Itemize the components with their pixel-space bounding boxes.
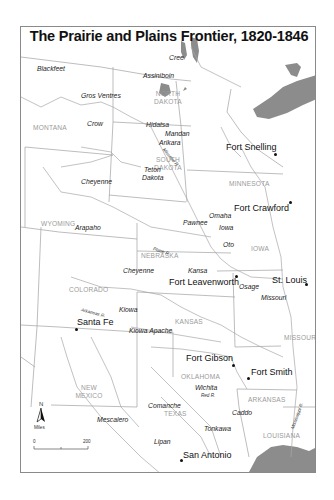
tribe-label-caddo: Caddo	[232, 410, 252, 417]
north-arrow-icon	[35, 408, 47, 424]
scale-bar	[33, 446, 89, 452]
tribe-label-mandan: Mandan	[165, 131, 190, 138]
tribe-label-kiowa: Kiowa	[119, 307, 138, 314]
map-frame: The Prairie and Plains Frontier, 1820-18…	[20, 26, 316, 473]
tribe-label-kiowa-apache: Kiowa Apache	[129, 328, 172, 335]
city-label-san-antonio: San Antonio	[183, 451, 232, 460]
city-label-fort-smith: Fort Smith	[251, 368, 293, 377]
tribe-label-gros-ventres: Gros Ventres	[81, 93, 121, 100]
tribe-label-comanche: Comanche	[148, 403, 181, 410]
tribe-label-hidatsa: Hidatsa	[146, 122, 169, 129]
tribe-label-mescalero: Mescalero	[97, 417, 128, 424]
north-label: N	[39, 401, 43, 407]
city-marker-fort-gibson[interactable]	[232, 364, 235, 367]
tribe-label-cree: Cree	[169, 55, 184, 62]
tribe-label-osage: Osage	[239, 284, 259, 291]
tribe-label-arikara: Arikara	[159, 140, 181, 147]
map-title: The Prairie and Plains Frontier, 1820-18…	[21, 28, 316, 44]
city-marker-fort-crawford[interactable]	[289, 201, 292, 204]
state-label-colorado: COLORADO	[69, 287, 108, 294]
tribe-label-assiniboin: Assiniboin	[143, 73, 174, 80]
state-label-new-mexico-1: NEW	[79, 385, 99, 392]
tribe-label-blackfeet: Blackfeet	[37, 66, 65, 73]
city-marker-santa-fe[interactable]	[75, 328, 78, 331]
tribe-label-iowa: Iowa	[219, 225, 233, 232]
state-label-kansas: KANSAS	[175, 319, 203, 326]
tribe-label-cheyenne-north: Cheyenne	[81, 179, 112, 186]
tribe-label-teton-2: Dakota	[142, 175, 164, 182]
city-label-santa-fe: Santa Fe	[77, 318, 114, 327]
tribe-label-oto: Oto	[223, 242, 234, 249]
city-label-fort-gibson: Fort Gibson	[186, 354, 233, 363]
scale-units-label: Miles	[34, 426, 45, 431]
state-label-north-dakota-1: NORTH	[153, 91, 183, 98]
city-label-st-louis: St. Louis	[272, 276, 307, 285]
city-marker-fort-smith[interactable]	[247, 377, 250, 380]
state-label-north-dakota-2: DAKOTA	[153, 99, 183, 106]
tribe-label-missouri: Missouri	[261, 295, 286, 302]
scale-start-label: 0	[33, 440, 36, 445]
tribe-label-arapaho: Arapaho	[75, 225, 101, 232]
tribe-label-omaha: Omaha	[209, 213, 231, 220]
scale-end-label: 200	[83, 440, 91, 445]
tribe-label-kansa: Kansa	[188, 268, 207, 275]
tribe-label-teton-1: Teton	[144, 167, 161, 174]
state-label-missouri: MISSOURI	[284, 335, 316, 342]
city-label-fort-leavenworth: Fort Leavenworth	[169, 278, 239, 287]
state-label-arkansas: ARKANSAS	[248, 397, 286, 404]
city-label-fort-crawford: Fort Crawford	[234, 204, 289, 213]
state-label-texas: TEXAS	[164, 411, 187, 418]
state-label-wyoming: WYOMING	[41, 221, 75, 228]
tribe-label-tonkawa: Tonkawa	[204, 426, 231, 433]
state-label-louisiana: LOUISIANA	[263, 433, 300, 440]
tribe-label-lipan: Lipan	[154, 439, 171, 446]
tribe-label-crow: Crow	[87, 121, 103, 128]
state-label-new-mexico-2: MEXICO	[73, 393, 105, 400]
tribe-label-wichita: Wichita	[195, 385, 217, 392]
city-label-fort-snelling: Fort Snelling	[226, 143, 277, 152]
state-label-iowa: IOWA	[251, 246, 269, 253]
state-label-oklahoma: OKLAHOMA	[181, 374, 220, 381]
state-label-montana: MONTANA	[33, 125, 67, 132]
city-marker-fort-snelling[interactable]	[274, 153, 277, 156]
state-label-minnesota: MINNESOTA	[229, 181, 270, 188]
tribe-label-cheyenne-south: Cheyenne	[123, 268, 154, 275]
river-label-red: Red R.	[201, 394, 215, 399]
tribe-label-pawnee: Pawnee	[183, 220, 208, 227]
